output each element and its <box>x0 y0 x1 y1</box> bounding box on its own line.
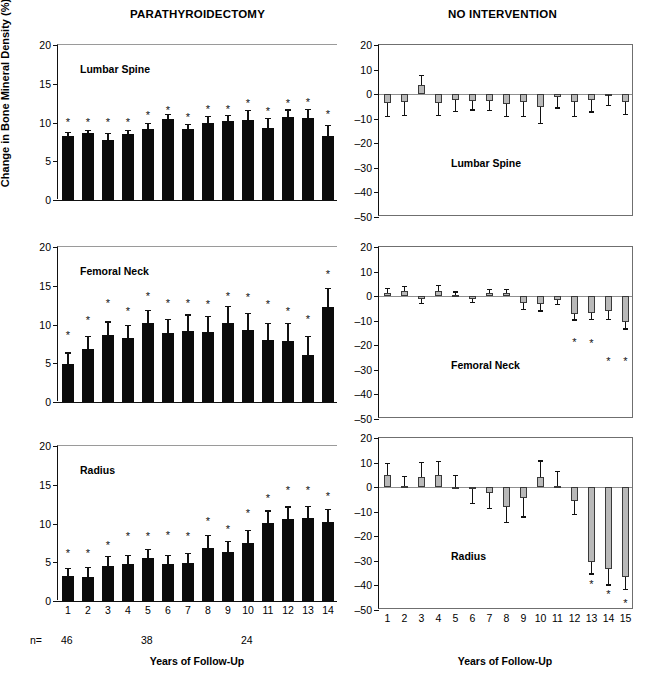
error-bar-cap <box>125 555 131 556</box>
y-tick-label: 0 <box>366 89 372 100</box>
error-bar <box>167 555 168 564</box>
y-tick-label: –40 <box>354 389 372 400</box>
significance-asterisk: * <box>306 485 310 496</box>
bar <box>222 323 234 402</box>
x-tick-label: 8 <box>504 613 510 624</box>
bar <box>62 576 74 601</box>
error-bar-cap <box>125 325 131 326</box>
x-tick-label: 4 <box>436 613 442 624</box>
y-tick-label: 15 <box>39 79 51 90</box>
bar <box>401 486 408 488</box>
error-bar-cap <box>419 462 424 463</box>
error-bar-cap <box>487 110 492 111</box>
error-bar <box>147 549 148 558</box>
y-tick <box>53 485 58 486</box>
significance-asterisk: * <box>126 117 130 128</box>
x-tick-label: 7 <box>185 605 191 616</box>
y-tick <box>53 247 58 248</box>
bar <box>554 486 561 488</box>
bar <box>571 94 578 102</box>
panel-parathyroidectomy-lumbar-spine: 05101520**************Lumbar Spine <box>57 44 337 199</box>
bar <box>162 119 174 200</box>
x-tick-label: 1 <box>385 613 391 624</box>
error-bar-cap <box>504 116 509 117</box>
y-tick <box>53 84 58 85</box>
significance-asterisk: * <box>186 112 190 123</box>
error-bar-cap <box>606 105 611 106</box>
significance-asterisk: * <box>266 493 270 504</box>
y-tick-label: 0 <box>366 291 372 302</box>
y-tick-label: 10 <box>360 266 372 277</box>
x-tick-label: 7 <box>487 613 493 624</box>
error-bar-cap <box>305 109 311 110</box>
x-tick-label: 6 <box>165 605 171 616</box>
error-bar <box>167 319 168 333</box>
error-bar <box>608 311 609 319</box>
y-tick <box>374 536 379 537</box>
y-tick-label: 10 <box>39 117 51 128</box>
bar <box>102 335 114 402</box>
significance-asterisk: * <box>86 548 90 559</box>
error-bar <box>247 313 248 330</box>
significance-asterisk: * <box>146 531 150 542</box>
significance-asterisk: * <box>146 110 150 121</box>
x-tick-label: 10 <box>242 605 254 616</box>
bar <box>571 296 578 314</box>
bar <box>571 487 578 501</box>
error-bar <box>187 553 188 563</box>
x-tick-label: 8 <box>205 605 211 616</box>
error-bar-cap <box>606 584 611 585</box>
error-bar-cap <box>145 123 151 124</box>
bar <box>122 338 134 402</box>
n-row-value: 24 <box>241 634 253 646</box>
error-bar-cap <box>589 319 594 320</box>
x-axis-baseline <box>58 402 337 403</box>
n-row-value: 38 <box>141 634 153 646</box>
error-bar-cap <box>185 314 191 315</box>
bar <box>242 120 254 200</box>
bar <box>322 307 334 402</box>
x-tick-label: 4 <box>125 605 131 616</box>
plot-area: 05101520**************Lumbar Spine <box>57 44 337 199</box>
bar <box>202 332 214 402</box>
significance-asterisk: * <box>186 531 190 542</box>
y-tick-label: –30 <box>354 556 372 567</box>
error-bar <box>307 109 308 118</box>
bar <box>322 522 334 601</box>
error-bar <box>438 103 439 115</box>
error-bar-cap <box>589 573 594 574</box>
error-bar-cap <box>125 130 131 131</box>
significance-asterisk: * <box>286 485 290 496</box>
error-bar-cap <box>504 522 509 523</box>
error-bar-cap <box>538 123 543 124</box>
significance-asterisk: * <box>572 337 576 348</box>
error-bar <box>557 471 558 486</box>
x-tick-label: 9 <box>225 605 231 616</box>
bar <box>122 564 134 601</box>
error-bar <box>387 463 388 476</box>
error-bar-cap <box>572 116 577 117</box>
bar <box>162 564 174 601</box>
error-bar-cap <box>165 555 171 556</box>
y-tick-label: –50 <box>354 212 372 223</box>
bar <box>520 296 527 303</box>
bar <box>162 333 174 402</box>
y-tick-label: –30 <box>354 163 372 174</box>
bar <box>282 519 294 601</box>
panel-no-intervention-radius: 20100–10–20–30–40–50123456789101112*13*1… <box>378 437 633 609</box>
bar <box>520 487 527 498</box>
error-bar <box>523 102 524 115</box>
panel-annotation: Femoral Neck <box>451 359 520 371</box>
n-row-value: 46 <box>61 634 73 646</box>
bar <box>418 477 425 487</box>
y-axis-title: Change in Bone Mineral Density (%) <box>0 0 11 218</box>
significance-asterisk: * <box>106 117 110 128</box>
error-bar <box>489 493 490 508</box>
y-tick-label: 0 <box>45 596 51 607</box>
error-bar-cap <box>538 310 543 311</box>
bar <box>262 523 274 601</box>
significance-asterisk: * <box>286 306 290 317</box>
error-bar <box>147 310 148 323</box>
y-tick-label: 20 <box>39 441 51 452</box>
bar <box>302 355 314 402</box>
